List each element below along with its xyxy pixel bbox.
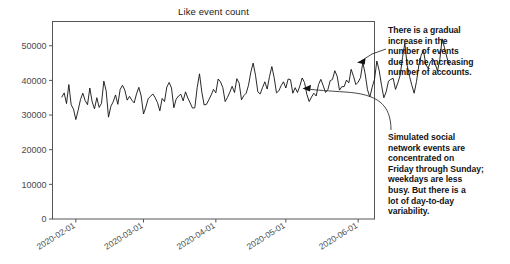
chart-screenshot: Like event count 01000020000300004000050… [0,0,510,264]
y-axis-tick-label: 20000 [21,145,46,155]
annotation-leaders [303,49,392,130]
annotation-line: lot of day-to-day [388,196,454,206]
annotation-line: number of events [388,46,459,56]
x-axis-tick-label: 2020-06-01 [317,220,359,252]
annotation-growth-note: There is a gradualincrease in thenumber … [388,25,508,78]
annotation-line: concentrated on [388,153,454,163]
annotation-line: Friday through Sunday; [388,164,484,174]
annotation-line: network events are [388,143,465,153]
growth-note-arrowhead [357,58,366,64]
weekly-pattern-note-arrow [307,89,391,130]
annotation-line: number of accounts. [388,67,472,77]
x-axis-tick-label: 2020-03-01 [102,220,144,252]
y-axis-tick-label: 10000 [21,180,46,190]
annotation-line: busy. But there is a [388,185,466,195]
y-axis-tick-label: 50000 [21,41,46,51]
y-axis-tick-label: 0 [41,214,46,224]
annotation-line: due to the increasing [388,57,473,67]
annotation-line: There is a gradual [388,25,461,35]
y-axis-ticks: 01000020000300004000050000 [21,41,52,224]
weekly-pattern-note-arrowhead [303,85,312,92]
plot-frame [53,22,375,220]
y-axis-tick-label: 30000 [21,110,46,120]
annotation-line: increase in the [388,36,447,46]
annotation-line: weekdays are less [388,174,462,184]
x-axis-ticks: 2020-02-012020-03-012020-04-012020-05-01… [35,219,360,252]
x-axis-tick-label: 2020-05-01 [245,220,287,252]
annotation-line: variability. [388,206,429,216]
annotation-line: Simulated social [388,132,455,142]
x-axis-tick-label: 2020-02-01 [35,220,77,252]
y-axis-tick-label: 40000 [21,76,46,86]
x-axis-tick-label: 2020-04-01 [175,220,217,252]
annotation-weekly-pattern-note: Simulated socialnetwork events areconcen… [388,132,508,217]
